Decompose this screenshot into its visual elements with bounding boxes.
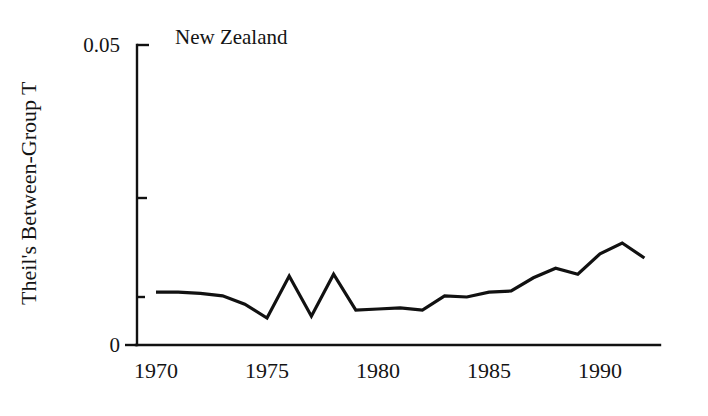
x-tick-label-1985: 1985	[467, 358, 511, 383]
x-tick-label-1980: 1980	[356, 358, 400, 383]
x-tick-label-1975: 1975	[245, 358, 289, 383]
y-tick-label-top: 0.05	[83, 33, 120, 57]
line-chart: New Zealand Theil's Between-Group T 0.05…	[0, 0, 708, 416]
x-tick-label-1990: 1990	[578, 358, 622, 383]
y-tick-label-bottom: 0	[110, 333, 121, 357]
data-series-line	[156, 243, 644, 318]
x-tick-label-1970: 1970	[134, 358, 178, 383]
chart-title: New Zealand	[175, 25, 288, 49]
y-axis-label: Theil's Between-Group T	[16, 81, 41, 305]
chart-figure: New Zealand Theil's Between-Group T 0.05…	[0, 0, 708, 416]
